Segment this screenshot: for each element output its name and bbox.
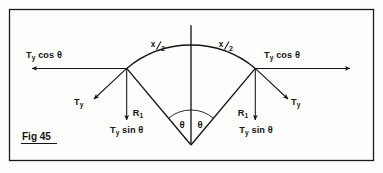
figure-caption: Fig 45 bbox=[22, 131, 51, 142]
label-radius-right: R1 bbox=[238, 108, 249, 119]
label-ty-cos-theta-left: Ty cos θ bbox=[26, 50, 62, 62]
angle-arc-left bbox=[169, 110, 192, 118]
label-radius-left: R1 bbox=[133, 108, 144, 119]
vector-ty-right bbox=[255, 68, 288, 99]
arc-right-denominator: 2 bbox=[229, 44, 233, 53]
label-ty-right: Ty bbox=[291, 97, 301, 109]
label-angle-theta-left: θ bbox=[179, 119, 184, 130]
label-ty-sin-theta-right: Ty sin θ bbox=[239, 125, 272, 137]
label-ty-left: Ty bbox=[74, 97, 84, 109]
label-ty-sin-theta-left: Ty sin θ bbox=[110, 125, 143, 137]
arc-left-denominator: 2 bbox=[161, 44, 165, 53]
angle-arc-right bbox=[191, 110, 214, 118]
vector-ty-left bbox=[94, 68, 127, 99]
arc-left-numerator: x bbox=[151, 40, 156, 49]
figure-container: Ty cos θ Ty cos θ Ty Ty Ty sin θ Ty sin … bbox=[0, 0, 383, 173]
label-angle-theta-right: θ bbox=[197, 119, 202, 130]
arc-right-numerator: x bbox=[219, 40, 224, 49]
label-ty-cos-theta-right: Ty cos θ bbox=[264, 50, 300, 62]
force-diagram: Ty cos θ Ty cos θ Ty Ty Ty sin θ Ty sin … bbox=[0, 0, 383, 173]
